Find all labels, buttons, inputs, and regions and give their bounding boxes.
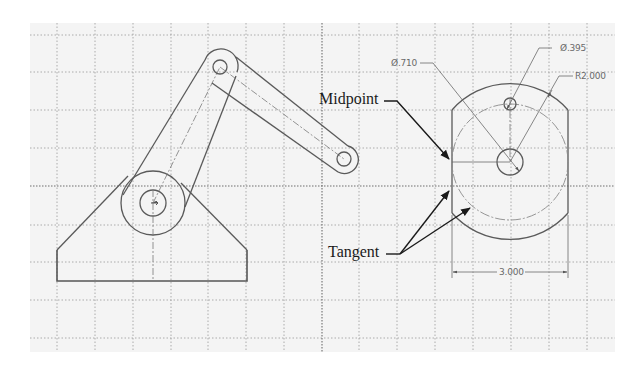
callout-midpoint: Midpoint xyxy=(319,90,379,108)
callout-tangent: Tangent xyxy=(328,243,380,261)
dim-radius-2000[interactable]: R2.000 xyxy=(575,71,606,81)
cad-sketch-canvas: Ø.710 Ø.395 R2.000 3.000 Midpoint Tangen… xyxy=(0,0,643,372)
dim-width-3000[interactable]: 3.000 xyxy=(499,267,524,277)
dim-diameter-710[interactable]: Ø.710 xyxy=(391,58,418,68)
dim-diameter-395[interactable]: Ø.395 xyxy=(560,43,586,53)
